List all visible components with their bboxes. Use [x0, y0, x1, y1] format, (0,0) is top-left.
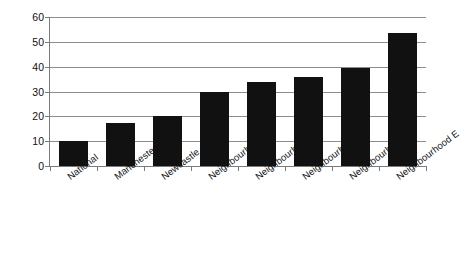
x-tick-mark	[191, 166, 192, 171]
y-tick-label: 0	[22, 161, 44, 171]
x-tick-mark	[379, 166, 380, 171]
y-tick-label: 30	[22, 87, 44, 97]
x-tick-mark	[50, 166, 51, 171]
x-tick-mark	[332, 166, 333, 171]
y-tick-label: 40	[22, 62, 44, 72]
bar	[341, 68, 369, 166]
bar	[153, 116, 181, 166]
y-tick-label: 10	[22, 136, 44, 146]
bars-group	[50, 17, 426, 166]
bar	[388, 33, 416, 166]
y-tick-label: 50	[22, 37, 44, 47]
x-tick-mark	[97, 166, 98, 171]
bar	[294, 77, 322, 166]
plot-area	[49, 17, 426, 167]
bar	[200, 92, 228, 167]
bar	[106, 123, 134, 166]
x-tick-mark	[426, 166, 427, 171]
y-tick-label: 60	[22, 12, 44, 22]
x-tick-mark	[285, 166, 286, 171]
x-tick-mark	[238, 166, 239, 171]
y-axis-tick-labels: 0102030405060	[20, 0, 44, 253]
x-tick-mark	[144, 166, 145, 171]
bar	[59, 141, 87, 166]
y-tick-label: 20	[22, 111, 44, 121]
bar	[247, 82, 275, 166]
